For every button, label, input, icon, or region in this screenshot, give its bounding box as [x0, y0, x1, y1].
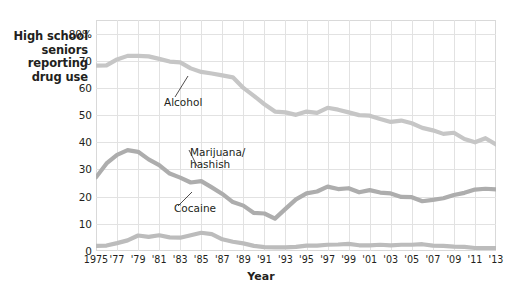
x-tick-label: '93	[278, 254, 293, 265]
x-axis-title: Year	[0, 270, 522, 283]
x-tick-label: '85	[194, 254, 209, 265]
x-tick-label: '97	[320, 254, 335, 265]
x-tick-label: '91	[257, 254, 272, 265]
x-tick-label: '95	[299, 254, 314, 265]
x-tick-label: '77	[110, 254, 125, 265]
series-label-marijuana-line2: hashish	[190, 158, 245, 170]
y-tick-label: 80%	[52, 28, 92, 40]
x-tick-label: '99	[341, 254, 356, 265]
series-label-alcohol: Alcohol	[164, 96, 202, 108]
x-tick-label: '81	[152, 254, 167, 265]
series-label-marijuana: Marijuana/ hashish	[190, 146, 245, 170]
y-tick-label: 60	[52, 82, 92, 94]
series-lines	[96, 20, 496, 251]
x-tick-label: '03	[383, 254, 398, 265]
plot-area	[96, 20, 496, 251]
x-tick-label: '09	[446, 254, 461, 265]
x-tick-label: '89	[236, 254, 251, 265]
x-tick-label: '07	[425, 254, 440, 265]
series-line-cocaine	[96, 233, 496, 248]
x-axis-tick-labels: 1975'77'79'81'83'85'87'89'91'93'95'97'99…	[96, 254, 496, 268]
x-tick-label: '79	[131, 254, 146, 265]
x-tick-label: '87	[215, 254, 230, 265]
x-tick-label: 1975	[84, 254, 108, 265]
series-line-marijuana-hashish	[96, 150, 496, 218]
y-tick-label: 70	[52, 55, 92, 67]
series-line-alcohol	[96, 56, 496, 145]
y-tick-label: 50	[52, 109, 92, 121]
y-tick-label: 10	[52, 218, 92, 230]
x-tick-label: '01	[362, 254, 377, 265]
x-tick-label: '05	[404, 254, 419, 265]
chart-figure: High school seniors reporting drug use 0…	[0, 0, 522, 291]
series-label-marijuana-line1: Marijuana/	[190, 146, 245, 158]
x-tick-label: '11	[468, 254, 483, 265]
y-axis-tick-labels: 01020304050607080%	[50, 20, 92, 251]
x-tick-label: '83	[173, 254, 188, 265]
y-tick-label: 20	[52, 191, 92, 203]
y-tick-label: 30	[52, 163, 92, 175]
x-tick-label: '13	[489, 254, 504, 265]
series-label-cocaine: Cocaine	[174, 202, 216, 214]
y-tick-label: 40	[52, 136, 92, 148]
leader-line-alcohol	[175, 76, 188, 97]
